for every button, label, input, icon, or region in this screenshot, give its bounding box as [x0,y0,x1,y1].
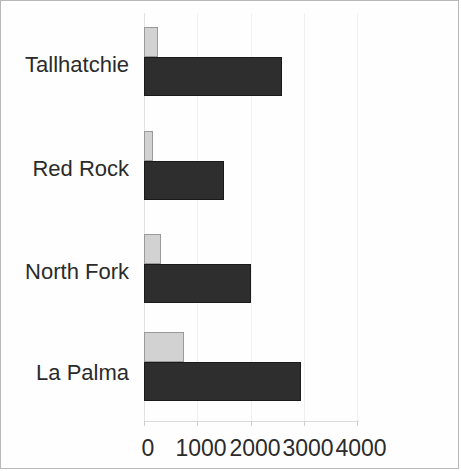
x-tick-0 [144,421,145,426]
bar-dark-la-palma[interactable] [144,362,301,401]
x-tick-4000 [357,421,358,426]
bar-dark-north-fork[interactable] [144,264,251,303]
y-axis-label-red-rock: Red Rock [32,156,129,182]
bar-light-north-fork[interactable] [144,234,161,264]
x-tick-2000 [251,421,252,426]
y-axis-label-la-palma: La Palma [36,360,129,386]
x-axis-label-2000: 2000 [229,435,280,462]
gridline-4000 [357,13,358,421]
x-tick-1000 [197,421,198,426]
x-axis-label-1000: 1000 [175,435,226,462]
bar-light-tallhatchie[interactable] [144,27,158,57]
bar-dark-red-rock[interactable] [144,161,224,200]
bar-light-la-palma[interactable] [144,332,184,362]
bar-light-red-rock[interactable] [144,131,153,161]
y-axis-label-tallhatchie: Tallhatchie [25,52,129,78]
chart-frame: Tallhatchie Red Rock North Fork La Palma… [0,0,459,469]
bar-dark-tallhatchie[interactable] [144,57,282,96]
gridline-3000 [304,13,305,421]
x-axis-label-4000: 4000 [335,435,386,462]
x-tick-3000 [304,421,305,426]
x-axis-label-3000: 3000 [282,435,333,462]
y-axis-label-north-fork: North Fork [25,259,129,285]
x-axis-label-0: 0 [142,435,155,462]
